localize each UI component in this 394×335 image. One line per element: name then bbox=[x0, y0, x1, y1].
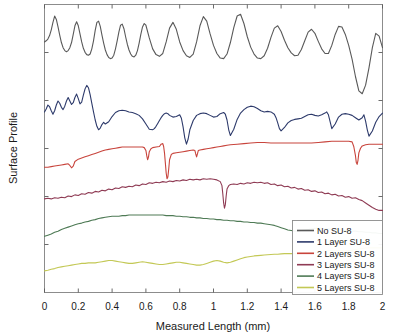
legend-label-5: 5 Layers SU-8 bbox=[317, 283, 375, 293]
x-tick-label: 1 bbox=[211, 301, 217, 312]
x-tick-label: 0.6 bbox=[139, 301, 153, 312]
y-axis-label: Surface Profile bbox=[7, 112, 19, 184]
x-axis-label: Measured Length (mm) bbox=[156, 320, 270, 332]
x-tick-label: 0.4 bbox=[105, 301, 119, 312]
legend-label-2: 2 Layers SU-8 bbox=[317, 249, 375, 259]
x-tick-label: 2 bbox=[380, 301, 386, 312]
x-tick-label: 1.6 bbox=[308, 301, 322, 312]
x-tick-label: 0.2 bbox=[71, 301, 85, 312]
x-tick-label: 1.2 bbox=[240, 301, 254, 312]
legend-label-1: 1 Layer SU-8 bbox=[317, 237, 370, 247]
legend-label-4: 4 Layers SU-8 bbox=[317, 271, 375, 281]
x-tick-label: 0.8 bbox=[173, 301, 187, 312]
chart-legend[interactable]: No SU-81 Layer SU-82 Layers SU-83 Layers… bbox=[293, 221, 383, 295]
x-tick-label: 1.8 bbox=[342, 301, 356, 312]
chart-canvas: 00.20.40.60.811.21.41.61.82 Measured Len… bbox=[0, 0, 394, 335]
legend-label-3: 3 Layers SU-8 bbox=[317, 260, 375, 270]
x-tick-label: 0 bbox=[42, 301, 48, 312]
chart-figure: 00.20.40.60.811.21.41.61.82 Measured Len… bbox=[0, 0, 394, 335]
x-tick-label: 1.4 bbox=[274, 301, 288, 312]
legend-label-0: No SU-8 bbox=[317, 226, 352, 236]
